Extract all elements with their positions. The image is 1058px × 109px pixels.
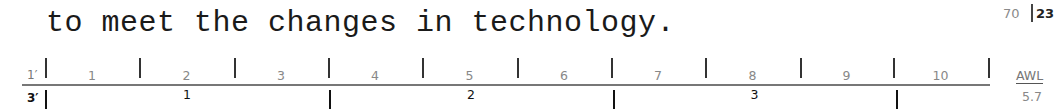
- one-minute-tick: [517, 58, 519, 78]
- one-minute-segment-number: 6: [560, 68, 568, 83]
- page-count-separator: [1031, 4, 1033, 22]
- one-minute-tick: [705, 58, 707, 78]
- one-minute-tick: [328, 58, 330, 78]
- one-minute-segment-number: 3: [277, 68, 285, 83]
- awl-label: AWL: [1016, 69, 1043, 84]
- one-minute-segment-number: 7: [654, 68, 662, 83]
- one-minute-tick: [893, 58, 895, 78]
- one-minute-tick: [422, 58, 424, 78]
- ruler-divider-line: [22, 84, 990, 86]
- three-minute-segment-number: 3: [751, 87, 759, 102]
- three-minute-tick: [896, 90, 898, 109]
- word-count: 70: [1003, 6, 1020, 21]
- three-minute-tick: [45, 90, 47, 109]
- one-minute-segment-number: 8: [749, 68, 757, 83]
- three-minute-label: 3′: [27, 91, 39, 105]
- one-minute-segment-number: 2: [183, 68, 191, 83]
- one-minute-label: 1′: [27, 68, 37, 82]
- one-minute-segment-number: 5: [466, 68, 474, 83]
- one-minute-tick: [800, 58, 802, 78]
- typewriter-text-line: to meet the changes in technology.: [46, 6, 675, 40]
- one-minute-tick: [139, 58, 141, 78]
- three-minute-segment-number: 2: [467, 87, 475, 102]
- three-minute-segment-number: 1: [183, 87, 191, 102]
- one-minute-segment-number: 10: [933, 68, 949, 83]
- awl-value: 5.7: [1022, 89, 1042, 104]
- line-count: 23: [1036, 6, 1054, 21]
- one-minute-tick: [988, 58, 990, 78]
- one-minute-tick: [234, 58, 236, 78]
- one-minute-tick: [611, 58, 613, 78]
- one-minute-segment-number: 9: [843, 68, 851, 83]
- one-minute-segment-number: 1: [88, 68, 96, 83]
- three-minute-tick: [329, 90, 331, 109]
- one-minute-tick: [45, 58, 47, 78]
- three-minute-tick: [613, 90, 615, 109]
- one-minute-segment-number: 4: [371, 68, 379, 83]
